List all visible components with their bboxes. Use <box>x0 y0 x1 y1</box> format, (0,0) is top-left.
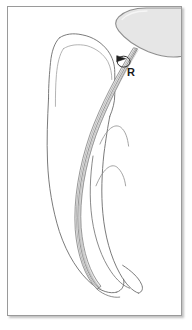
figure-root: R <box>0 0 192 330</box>
root-canal-curve <box>90 156 129 288</box>
pulp-chamber-outline <box>63 45 111 80</box>
tooth-root-outline-right <box>102 116 139 293</box>
figure-frame: R <box>7 6 182 316</box>
pulp-chamber-left-edge <box>55 49 63 107</box>
tooth-crown-left-edge <box>49 38 60 99</box>
endodontic-file-tip <box>97 289 120 297</box>
handpiece-head <box>116 8 181 57</box>
endodontic-file-flute-4 <box>80 50 138 289</box>
root-apex-right <box>123 265 143 293</box>
endodontic-file-flute-3 <box>79 50 137 289</box>
bone-contour-lower <box>96 166 126 186</box>
endodontic-file-shaft <box>75 48 138 289</box>
root-apex-left <box>117 279 124 292</box>
illustration-canvas <box>8 7 181 315</box>
bone-contour-upper <box>100 126 129 146</box>
